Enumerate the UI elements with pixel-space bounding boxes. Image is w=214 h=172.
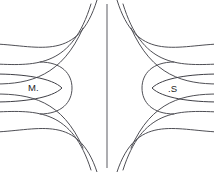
field-line-right-third-bottom xyxy=(131,94,214,148)
pole-label-left: M. xyxy=(28,82,39,93)
field-line-left-third-bottom xyxy=(0,94,83,148)
field-line-canvas: M. .S xyxy=(0,0,214,172)
field-line-right-third-top xyxy=(131,28,214,84)
field-line-left-outer-top xyxy=(0,0,97,47)
field-line-left-outer-bottom xyxy=(0,128,97,172)
field-line-left-inner xyxy=(40,62,72,114)
field-line-right-second-bottom xyxy=(123,111,214,170)
field-line-left-second-top xyxy=(0,4,91,65)
field-line-right-outer-top xyxy=(117,0,214,47)
field-line-left-third-top xyxy=(0,28,83,84)
field-line-right-second-top xyxy=(123,4,214,65)
field-line-right-outer-bottom xyxy=(117,128,214,172)
pole-label-right: .S xyxy=(168,83,177,94)
field-line-left-second-bottom xyxy=(0,111,91,170)
magnetic-field-diagram: M. .S xyxy=(0,0,214,172)
